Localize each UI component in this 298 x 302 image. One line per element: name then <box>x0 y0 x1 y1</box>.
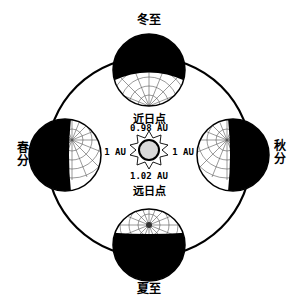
perihelion-distance: 0.98 AU <box>124 123 174 133</box>
label-autumn-equinox: 秋 分 <box>273 140 287 166</box>
label-spring-equinox: 春 分 <box>16 142 30 168</box>
orbit-diagram <box>0 0 298 302</box>
sun-icon <box>130 131 168 169</box>
label-spring-equinox-bottom: 分 <box>16 155 30 168</box>
aphelion-distance: 1.02 AU <box>124 171 174 181</box>
label-autumn-equinox-bottom: 分 <box>273 153 287 166</box>
label-summer-solstice: 夏至 <box>130 283 168 296</box>
earth-autumn-equinox <box>187 100 280 200</box>
left-distance: 1 AU <box>103 147 127 157</box>
earth-spring-equinox <box>20 100 112 200</box>
label-winter-solstice: 冬至 <box>130 14 168 27</box>
aphelion-label: 远日点 <box>124 182 174 198</box>
right-distance: 1 AU <box>171 147 195 157</box>
earth-summer-solstice <box>105 185 193 290</box>
